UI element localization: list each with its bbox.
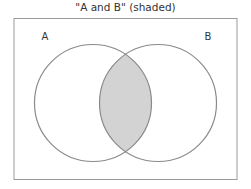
set-a-label: A (42, 31, 49, 42)
venn-diagram: A B (0, 0, 251, 189)
set-b-label: B (205, 31, 212, 42)
